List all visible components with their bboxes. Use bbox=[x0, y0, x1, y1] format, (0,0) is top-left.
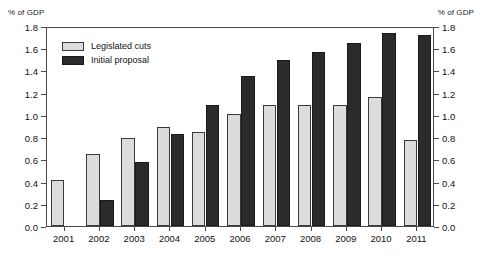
y-tick-mark-right bbox=[434, 71, 439, 72]
bar-initial-proposal-2007 bbox=[277, 60, 291, 226]
x-tick-label-2003: 2003 bbox=[114, 233, 154, 244]
y-tick-label-left: 0.0 bbox=[4, 222, 38, 233]
bar-initial-proposal-2003 bbox=[135, 162, 149, 226]
bar-legislated-cuts-2004 bbox=[157, 127, 171, 226]
y-tick-mark-left bbox=[41, 71, 46, 72]
bar-initial-proposal-2002 bbox=[100, 200, 114, 226]
legend-label: Initial proposal bbox=[91, 55, 149, 65]
x-tick-label-2009: 2009 bbox=[326, 233, 366, 244]
y-tick-mark-right bbox=[434, 27, 439, 28]
x-tick-mark bbox=[311, 227, 312, 231]
y-tick-label-left: 0.6 bbox=[4, 155, 38, 166]
y-tick-label-right: 1.0 bbox=[442, 110, 476, 121]
x-tick-label-2004: 2004 bbox=[149, 233, 189, 244]
bar-initial-proposal-2009 bbox=[347, 43, 361, 226]
y-tick-mark-right bbox=[434, 94, 439, 95]
y-tick-label-left: 1.4 bbox=[4, 66, 38, 77]
y-tick-mark-left bbox=[41, 116, 46, 117]
x-tick-label-2010: 2010 bbox=[361, 233, 401, 244]
x-tick-mark bbox=[134, 227, 135, 231]
bar-legislated-cuts-2002 bbox=[86, 154, 100, 226]
x-tick-label-2005: 2005 bbox=[185, 233, 225, 244]
bar-legislated-cuts-2011 bbox=[404, 140, 418, 226]
bar-legislated-cuts-2005 bbox=[192, 132, 206, 226]
y-tick-label-left: 1.6 bbox=[4, 44, 38, 55]
bar-initial-proposal-2011 bbox=[418, 35, 432, 226]
x-tick-mark bbox=[275, 227, 276, 231]
y-tick-mark-left bbox=[41, 205, 46, 206]
y-tick-mark-left bbox=[41, 27, 46, 28]
bar-chart: % of GDP % of GDP Legislated cutsInitial… bbox=[0, 0, 480, 258]
x-tick-label-2011: 2011 bbox=[396, 233, 436, 244]
y-tick-label-right: 0.4 bbox=[442, 177, 476, 188]
y-tick-label-right: 0.8 bbox=[442, 133, 476, 144]
bar-legislated-cuts-2010 bbox=[368, 97, 382, 226]
right-axis-unit-label: % of GDP bbox=[438, 8, 474, 17]
x-tick-label-2008: 2008 bbox=[291, 233, 331, 244]
bar-legislated-cuts-2001 bbox=[51, 180, 65, 226]
legend-label: Legislated cuts bbox=[91, 41, 151, 51]
y-tick-mark-right bbox=[434, 205, 439, 206]
legend-swatch-icon bbox=[62, 56, 84, 65]
bar-legislated-cuts-2008 bbox=[298, 105, 312, 226]
y-tick-mark-left bbox=[41, 49, 46, 50]
bar-initial-proposal-2004 bbox=[171, 134, 185, 226]
y-tick-label-left: 1.2 bbox=[4, 88, 38, 99]
y-tick-mark-right bbox=[434, 227, 439, 228]
y-tick-label-left: 0.8 bbox=[4, 133, 38, 144]
y-tick-mark-right bbox=[434, 183, 439, 184]
left-axis-unit-label: % of GDP bbox=[8, 8, 44, 17]
x-tick-label-2006: 2006 bbox=[220, 233, 260, 244]
legend-item-initial-proposal: Initial proposal bbox=[62, 54, 151, 66]
y-tick-mark-left bbox=[41, 160, 46, 161]
x-tick-label-2007: 2007 bbox=[255, 233, 295, 244]
y-tick-label-left: 1.0 bbox=[4, 110, 38, 121]
y-tick-mark-right bbox=[434, 49, 439, 50]
y-tick-label-right: 1.2 bbox=[442, 88, 476, 99]
legend-item-legislated-cuts: Legislated cuts bbox=[62, 40, 151, 52]
x-tick-mark bbox=[205, 227, 206, 231]
y-tick-mark-left bbox=[41, 227, 46, 228]
x-tick-mark bbox=[99, 227, 100, 231]
bar-initial-proposal-2006 bbox=[241, 76, 255, 226]
y-tick-mark-right bbox=[434, 138, 439, 139]
x-tick-mark bbox=[346, 227, 347, 231]
y-tick-mark-left bbox=[41, 138, 46, 139]
y-tick-mark-left bbox=[41, 94, 46, 95]
x-tick-mark bbox=[416, 227, 417, 231]
y-tick-mark-right bbox=[434, 116, 439, 117]
bar-legislated-cuts-2007 bbox=[263, 105, 277, 226]
x-tick-label-2001: 2001 bbox=[44, 233, 84, 244]
y-tick-label-right: 1.4 bbox=[442, 66, 476, 77]
bar-initial-proposal-2005 bbox=[206, 105, 220, 226]
y-tick-label-left: 0.4 bbox=[4, 177, 38, 188]
x-tick-mark bbox=[381, 227, 382, 231]
x-tick-label-2002: 2002 bbox=[79, 233, 119, 244]
chart-legend: Legislated cutsInitial proposal bbox=[62, 40, 151, 68]
x-tick-mark bbox=[64, 227, 65, 231]
y-tick-label-right: 0.0 bbox=[442, 222, 476, 233]
bar-initial-proposal-2010 bbox=[382, 33, 396, 226]
x-tick-mark bbox=[169, 227, 170, 231]
y-tick-label-right: 1.6 bbox=[442, 44, 476, 55]
y-tick-mark-left bbox=[41, 183, 46, 184]
bar-legislated-cuts-2009 bbox=[333, 105, 347, 226]
y-tick-label-right: 0.2 bbox=[442, 199, 476, 210]
bar-initial-proposal-2008 bbox=[312, 52, 326, 226]
bar-legislated-cuts-2006 bbox=[227, 114, 241, 226]
y-tick-label-left: 0.2 bbox=[4, 199, 38, 210]
bar-legislated-cuts-2003 bbox=[121, 138, 135, 226]
y-tick-label-right: 1.8 bbox=[442, 22, 476, 33]
y-tick-mark-right bbox=[434, 160, 439, 161]
y-tick-label-left: 1.8 bbox=[4, 22, 38, 33]
legend-swatch-icon bbox=[62, 42, 84, 51]
y-tick-label-right: 0.6 bbox=[442, 155, 476, 166]
x-tick-mark bbox=[240, 227, 241, 231]
